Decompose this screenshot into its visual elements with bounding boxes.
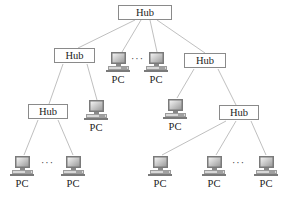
- pc-icon: [202, 155, 226, 177]
- pc-icon: [84, 99, 108, 121]
- pc-label: PC: [144, 74, 168, 85]
- pc-label: PC: [254, 178, 278, 189]
- pc-label: PC: [148, 178, 172, 189]
- pc-icon: [163, 98, 187, 120]
- pc-label: PC: [106, 74, 130, 85]
- hub-left-2: Hub: [28, 104, 68, 119]
- pc-label: PC: [10, 178, 34, 189]
- pc-label: PC: [61, 178, 85, 189]
- ellipsis: ···: [232, 157, 245, 168]
- pc-label: PC: [84, 122, 108, 133]
- pc-icon: [10, 155, 34, 177]
- pc-icon: [144, 51, 168, 73]
- hub-right-2: Hub: [219, 105, 259, 120]
- pc-icon: [106, 51, 130, 73]
- hub-left-1: Hub: [54, 48, 95, 63]
- ellipsis: ···: [131, 53, 144, 64]
- pc-icon: [254, 155, 278, 177]
- pc-label: PC: [202, 178, 226, 189]
- hub-right-1: Hub: [184, 53, 226, 68]
- pc-icon: [148, 155, 172, 177]
- pc-label: PC: [163, 121, 187, 132]
- pc-icon: [61, 155, 85, 177]
- ellipsis: ···: [41, 157, 54, 168]
- hub-root: Hub: [118, 5, 172, 20]
